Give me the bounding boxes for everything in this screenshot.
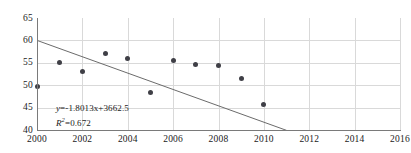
x-tick-2010: 2010 xyxy=(244,134,284,145)
plot-area: y=-1.8013x+3662.5 R2=0.672 xyxy=(37,18,400,130)
data-point-2002 xyxy=(80,69,85,74)
y-tick-50: 50 xyxy=(7,81,33,91)
scatter-chart: 65 60 55 50 45 40 xyxy=(0,0,411,153)
data-point-2005 xyxy=(148,90,153,95)
y-axis-tick-labels: 65 60 55 50 45 40 xyxy=(0,0,33,153)
data-point-2006 xyxy=(171,58,176,63)
data-point-2003 xyxy=(103,51,108,56)
y-tick-60: 60 xyxy=(7,36,33,46)
data-point-2007 xyxy=(193,62,198,67)
x-tick-2014: 2014 xyxy=(335,134,375,145)
y-axis-line xyxy=(37,18,38,131)
y-tick-55: 55 xyxy=(7,58,33,68)
x-axis-line xyxy=(37,130,401,131)
data-point-2010 xyxy=(261,102,266,107)
y-tick-45: 45 xyxy=(7,103,33,113)
x-tick-2012: 2012 xyxy=(289,134,329,145)
x-tick-2008: 2008 xyxy=(199,134,239,145)
x-tick-2002: 2002 xyxy=(62,134,102,145)
data-point-2008 xyxy=(216,63,221,68)
r-squared-label: R2=0.672 xyxy=(56,114,91,130)
y-tick-65: 65 xyxy=(7,14,33,24)
gridline-x-2016 xyxy=(400,18,401,130)
x-tick-2006: 2006 xyxy=(153,134,193,145)
x-tick-2016: 2016 xyxy=(380,134,411,145)
x-tick-2004: 2004 xyxy=(108,134,148,145)
trendline-equation: y=-1.8013x+3662.5 xyxy=(56,103,129,115)
r-squared-value: =0.672 xyxy=(65,118,91,128)
equation-body: =-1.8013x+3662.5 xyxy=(60,103,129,113)
x-tick-2000: 2000 xyxy=(17,134,57,145)
